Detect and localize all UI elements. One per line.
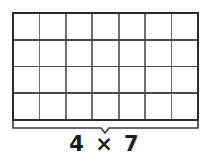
array-diagram: 4 × 7	[0, 0, 210, 161]
array-label: 4 × 7	[0, 131, 210, 157]
